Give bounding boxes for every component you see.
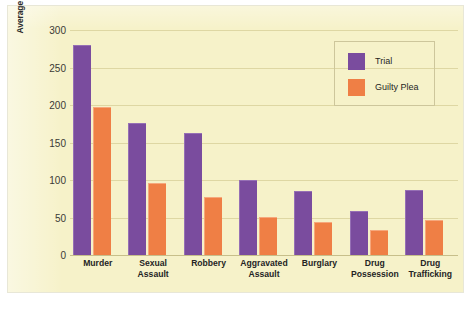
legend-item: Trial <box>335 48 434 74</box>
bar-guilty-plea <box>425 220 443 255</box>
bar-group <box>238 180 278 255</box>
x-tick-label: Drug Possession <box>351 258 399 279</box>
bar-trial <box>350 211 368 255</box>
bar-group <box>127 123 167 255</box>
bar-group <box>72 45 112 255</box>
y-tick-label: 300 <box>32 25 66 36</box>
bar-guilty-plea <box>259 217 277 255</box>
bar-trial <box>294 191 312 255</box>
x-tick-label: Murder <box>83 258 112 269</box>
x-tick-label: Aggravated Assault <box>240 258 287 279</box>
y-tick-label: 50 <box>32 212 66 223</box>
y-tick-label: 150 <box>32 137 66 148</box>
y-axis-tick-labels: 050100150200250300 <box>30 0 66 310</box>
x-tick-label: Robbery <box>191 258 226 269</box>
bar-group <box>293 191 333 255</box>
bar-guilty-plea <box>370 230 388 255</box>
x-tick-label: Drug Trafficking <box>409 258 452 279</box>
bar-guilty-plea <box>93 107 111 255</box>
y-tick-label: 0 <box>32 250 66 261</box>
bar-group <box>404 190 444 255</box>
bar-trial <box>239 180 257 255</box>
legend-label: Trial <box>375 56 392 66</box>
bar-guilty-plea <box>314 222 332 255</box>
x-tick-label: Sexual Assault <box>138 258 169 279</box>
bar-group <box>349 211 389 255</box>
legend-swatch-guilty-plea <box>348 79 365 96</box>
bar-trial <box>128 123 146 255</box>
legend-item: Guilty Plea <box>335 74 434 100</box>
bar-chart-figure: Average Maximum Prison Sentence (in Mont… <box>0 0 469 310</box>
bar-guilty-plea <box>148 183 166 255</box>
y-tick-label: 200 <box>32 100 66 111</box>
y-tick-label: 100 <box>32 175 66 186</box>
x-axis-tick-labels: MurderSexual AssaultRobberyAggravated As… <box>70 258 458 292</box>
y-tick-label: 250 <box>32 62 66 73</box>
bar-group <box>183 133 223 255</box>
x-tick-label: Burglary <box>302 258 337 269</box>
bar-guilty-plea <box>204 197 222 255</box>
chart-legend: TrialGuilty Plea <box>334 41 435 106</box>
legend-swatch-trial <box>348 53 365 70</box>
legend-label: Guilty Plea <box>375 82 419 92</box>
bar-trial <box>73 45 91 255</box>
x-axis-line <box>70 255 458 256</box>
bar-trial <box>184 133 202 255</box>
gridline-300 <box>70 30 458 31</box>
bar-trial <box>405 190 423 255</box>
